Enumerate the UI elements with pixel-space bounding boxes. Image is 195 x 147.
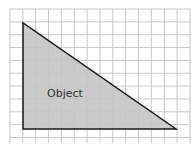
object-label: Object	[47, 87, 84, 100]
diagram-canvas: Object	[0, 0, 195, 147]
